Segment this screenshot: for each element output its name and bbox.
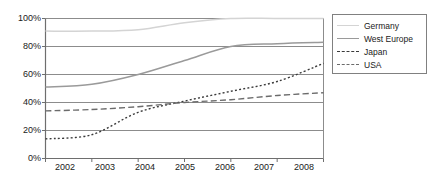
legend-label-usa: USA [364,60,381,70]
legend-line-icon-usa [337,60,359,70]
series-line-west-europe [46,42,324,87]
legend: Germany West Europe Japan USA [332,14,427,74]
legend-item-west-europe: West Europe [333,32,426,45]
series-line-usa [46,93,324,111]
legend-item-germany: Germany [333,19,426,32]
legend-label-west-europe: West Europe [364,34,413,44]
gridlines [46,19,324,159]
legend-line-icon-germany [337,21,359,31]
line-chart: 100% 80% 60% 40% 20% 0% 2002 2003 2004 2… [0,0,428,185]
legend-label-japan: Japan [364,47,387,57]
series-line-germany [46,18,324,31]
data-series-group [46,18,324,139]
legend-item-japan: Japan [333,45,426,58]
legend-label-germany: Germany [364,21,399,31]
legend-line-icon-west-europe [337,34,359,44]
axis-ticks [42,19,324,163]
legend-line-icon-japan [337,47,359,57]
plot-frame [46,19,324,159]
legend-item-usa: USA [333,58,426,71]
